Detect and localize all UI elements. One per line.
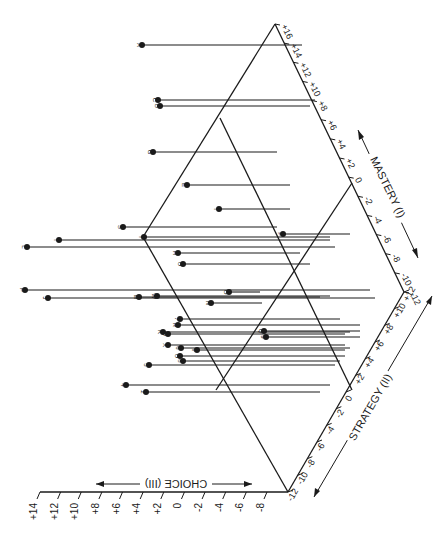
point-label: T xyxy=(53,238,59,242)
data-point: E xyxy=(181,182,290,188)
data-point: X xyxy=(162,342,345,348)
data-point: A xyxy=(136,42,302,48)
choice-tick-label: +2 xyxy=(152,503,163,515)
choice-tick-label: +10 xyxy=(69,503,80,520)
mastery-tick-label: 0 xyxy=(353,176,364,185)
point-label: W xyxy=(151,293,157,299)
strategy-tick-label: -4 xyxy=(324,424,337,436)
mastery-tick-label: +4 xyxy=(334,137,347,151)
data-point: L xyxy=(21,244,335,250)
data-point: 7 xyxy=(174,316,340,322)
base-inner-line-2 xyxy=(216,183,352,390)
data-point: B xyxy=(154,103,310,109)
chart-canvas: +14+12+10+8+6+4+20-2-4-6-8 -12-10-8-6-4-… xyxy=(0,0,439,535)
strategy-tick-label: +10 xyxy=(391,301,407,319)
strategy-tick-label: 0 xyxy=(343,394,354,403)
data-point: I xyxy=(213,206,290,212)
data-points: ACBGEIFSTYLHUPJMWON7RKDQ9X6VU8542 xyxy=(19,42,375,395)
point-label: R xyxy=(172,323,178,328)
strategy-tick-label: -10 xyxy=(295,470,310,486)
point-label: G xyxy=(147,150,153,155)
point-label: C xyxy=(152,98,158,103)
choice-tick-label: -2 xyxy=(193,503,204,512)
point-label: N xyxy=(205,301,211,305)
mastery-tick-label: -2 xyxy=(362,195,375,207)
data-point: 9 xyxy=(260,334,360,340)
arrow-up-icon xyxy=(358,130,364,140)
point-label: E xyxy=(181,183,187,187)
point-label: A xyxy=(136,43,142,47)
choice-tick-label: +4 xyxy=(131,503,142,515)
base-inner-line-1 xyxy=(220,118,352,390)
point-label: P xyxy=(19,288,25,292)
arrow-left-icon xyxy=(96,481,104,487)
strategy-tick-label: +2 xyxy=(353,372,367,386)
point-label: B xyxy=(154,104,160,108)
data-point: M xyxy=(133,294,320,300)
data-point: R xyxy=(172,322,360,328)
mastery-tick-label: -8 xyxy=(390,252,403,264)
mastery-tick-label: +8 xyxy=(316,99,329,113)
choice-tick-label: +8 xyxy=(90,503,101,515)
mastery-tick-label: -6 xyxy=(381,233,394,245)
strategy-axis-title: STRATEGY (II) xyxy=(314,296,432,497)
mastery-tick-label: -12 xyxy=(408,290,423,306)
point-label: Q xyxy=(258,329,264,334)
plot-frame xyxy=(40,24,404,492)
data-point: 4 xyxy=(120,382,330,388)
point-label: D xyxy=(162,332,168,337)
choice-tick-label: -6 xyxy=(234,503,245,512)
arrow-down-icon xyxy=(314,488,320,497)
data-point: S xyxy=(117,224,277,230)
data-point: Y xyxy=(138,234,330,240)
point-label: Y xyxy=(138,235,144,239)
choice-axis-label: CHOICE (III) xyxy=(145,478,207,490)
point-label: H xyxy=(172,251,178,255)
point-label: V xyxy=(191,348,197,352)
data-point: H xyxy=(172,250,300,256)
strategy-tick-label: -2 xyxy=(333,408,346,420)
strategy-axis-ticks: -12-10-8-6-4-20+2+4+6+8+10+12 xyxy=(285,285,417,503)
point-label: U xyxy=(174,354,180,358)
choice-axis-title: CHOICE (III) xyxy=(96,476,252,490)
pin-plot-3d: +14+12+10+8+6+4+20-2-4-6-8 -12-10-8-6-4-… xyxy=(0,0,439,535)
arrow-down-icon xyxy=(412,248,418,258)
arrow-right-icon xyxy=(244,481,252,487)
data-point: C xyxy=(152,97,315,103)
data-point: Q xyxy=(258,328,360,334)
point-label: F xyxy=(277,232,283,236)
strategy-tick-label: -8 xyxy=(304,458,317,470)
strategy-tick-label: +6 xyxy=(372,339,386,353)
point-label: S xyxy=(117,225,123,229)
strategy-tick-label: -6 xyxy=(314,441,327,453)
point-label: J xyxy=(42,297,48,300)
choice-tick-label: +14 xyxy=(28,503,39,520)
mastery-axis-label: MASTERY (I) xyxy=(368,155,408,220)
mastery-tick-label: +2 xyxy=(344,156,357,170)
arrow-up-icon xyxy=(426,296,432,305)
data-point: F xyxy=(277,231,350,237)
data-point: N xyxy=(205,300,262,306)
mastery-tick-label: -4 xyxy=(371,214,384,226)
data-point: G xyxy=(147,149,277,155)
mastery-tick-label: +6 xyxy=(325,118,338,132)
data-point: 8 xyxy=(177,358,340,364)
strategy-tick-label: +4 xyxy=(362,356,376,370)
point-label: X xyxy=(162,343,168,347)
data-point: U xyxy=(174,353,345,359)
strategy-tick-label: +8 xyxy=(382,322,396,336)
data-point: P xyxy=(19,287,370,293)
choice-tick-label: +6 xyxy=(111,503,122,515)
data-point: T xyxy=(53,237,330,243)
choice-axis-ticks: +14+12+10+8+6+4+20-2-4-6-8 xyxy=(28,492,267,520)
data-point: 5 xyxy=(143,362,335,368)
point-label: U xyxy=(177,262,183,266)
choice-tick-label: +12 xyxy=(49,503,60,520)
strategy-tick-label: -12 xyxy=(285,487,300,503)
point-label: O xyxy=(223,290,229,295)
point-label: M xyxy=(133,295,139,300)
choice-tick-label: -8 xyxy=(255,503,266,512)
choice-tick-label: -4 xyxy=(214,503,225,512)
base-edge-top xyxy=(143,24,275,237)
choice-tick-label: 0 xyxy=(172,503,183,509)
